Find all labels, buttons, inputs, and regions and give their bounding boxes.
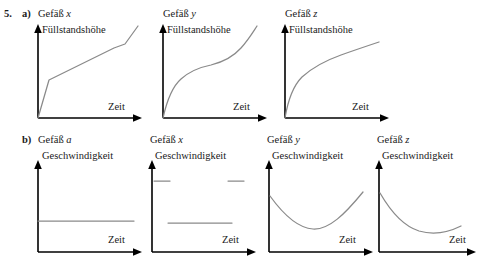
y-axis-arrow-b-a — [34, 160, 42, 169]
y-axis-arrow-b-z — [375, 160, 383, 169]
y-axis-arrow-b-x — [148, 160, 156, 169]
curve-a-y — [163, 26, 257, 118]
part-label-a: a) — [22, 8, 31, 19]
y-axis-arrow-b-y — [265, 160, 273, 169]
worksheet-page: 5. a) Gefäß x Füllstandshöhe Zeit Gefäß … — [0, 0, 485, 266]
y-axis-arrow-a-x — [34, 24, 42, 33]
chart-b-y — [253, 152, 381, 257]
chart-title-a-z-prefix: Gefäß — [285, 8, 311, 19]
curve-a-x — [38, 26, 138, 118]
curve-b-z — [380, 193, 461, 233]
chart-a-y — [147, 22, 275, 122]
chart-b-a — [22, 152, 150, 257]
chart-title-a-z: Gefäß z — [285, 8, 317, 19]
chart-title-a-z-var: z — [313, 8, 317, 19]
chart-title-b-x-prefix: Gefäß — [150, 134, 176, 145]
chart-title-b-x-var: x — [178, 134, 183, 145]
part-label-b: b) — [22, 134, 31, 145]
chart-title-b-x: Gefäß x — [150, 134, 183, 145]
chart-title-b-a-var: a — [66, 134, 71, 145]
y-axis-arrow-a-z — [281, 24, 289, 33]
curve-b-y — [270, 192, 363, 229]
chart-title-b-a-prefix: Gefäß — [38, 134, 64, 145]
exercise-number: 5. — [4, 8, 12, 19]
chart-title-a-x-prefix: Gefäß — [38, 8, 64, 19]
x-axis-arrow-b-z — [467, 248, 476, 256]
chart-title-b-z: Gefäß z — [377, 134, 409, 145]
y-axis-arrow-a-y — [159, 24, 167, 33]
chart-a-z — [269, 22, 397, 122]
chart-title-a-x: Gefäß x — [38, 8, 71, 19]
chart-title-b-a: Gefäß a — [38, 134, 72, 145]
chart-title-b-y: Gefäß y — [267, 134, 300, 145]
chart-title-b-y-prefix: Gefäß — [267, 134, 293, 145]
chart-title-a-y-var: y — [191, 8, 196, 19]
chart-b-x — [136, 152, 264, 257]
curve-a-z — [285, 42, 379, 118]
chart-a-x — [22, 22, 150, 122]
chart-title-a-y-prefix: Gefäß — [163, 8, 189, 19]
x-axis-arrow-a-x — [133, 114, 142, 122]
chart-title-a-x-var: x — [66, 8, 71, 19]
x-axis-arrow-a-z — [380, 114, 389, 122]
chart-title-b-y-var: y — [295, 134, 300, 145]
chart-title-b-z-var: z — [405, 134, 409, 145]
chart-title-a-y: Gefäß y — [163, 8, 196, 19]
x-axis-arrow-a-y — [258, 114, 267, 122]
chart-b-z — [363, 152, 485, 257]
chart-title-b-z-prefix: Gefäß — [377, 134, 403, 145]
